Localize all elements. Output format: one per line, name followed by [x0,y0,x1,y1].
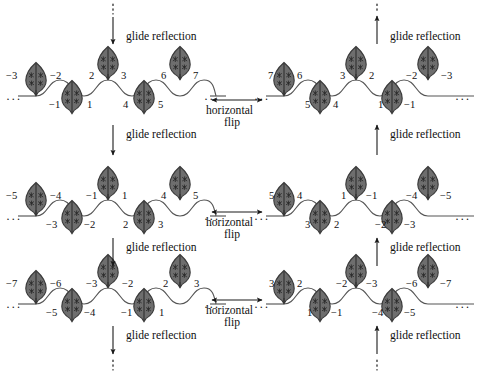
motif-label: −1 [86,190,97,201]
motif-label: −2 [122,278,133,289]
motif-label: −7 [6,278,17,289]
leaf-motif [62,81,82,114]
motif-label: −2 [406,70,417,81]
motif-label: −3 [6,70,17,81]
motif-label: −5 [404,307,415,318]
motif-label: 3 [158,219,163,230]
motif-label: −5 [46,307,57,318]
motif-label: −1 [121,307,132,318]
motif-label: −4 [50,190,61,201]
motif-label: −5 [440,190,451,201]
motif-label: 6 [161,70,166,81]
motif-label: −6 [406,278,417,289]
ellipsis-trail: ··· [204,212,220,227]
leaf-motif [134,201,154,234]
ellipsis-lead: ··· [254,300,270,315]
motif-label: −4 [372,307,383,318]
motif-label: −3 [366,278,377,289]
motif-label: −3 [404,219,415,230]
label-flip-row3-line2: flip [224,317,240,329]
motif-label: 7 [268,70,273,81]
motif-label: 3 [121,70,126,81]
motif-label: −3 [46,219,57,230]
motif-label: −6 [50,278,61,289]
label-glide-mid1-left: glide reflection [126,129,197,141]
label-glide-mid1-right: glide reflection [390,129,461,141]
leaf-motif [310,81,330,114]
frieze-pattern-svg [0,0,492,374]
motif-label: 2 [163,278,168,289]
leaf-motif [134,81,154,114]
motif-label: 2 [89,70,94,81]
ellipsis-lead: ··· [6,300,22,315]
label-glide-bottom-right: glide reflection [390,330,461,342]
label-glide-mid2-right: glide reflection [390,242,461,254]
motif-label: 1 [378,99,383,110]
motif-label: −4 [406,190,417,201]
ellipsis-lead: ··· [6,212,22,227]
motif-label: 3 [194,278,199,289]
leaf-motif [310,201,330,234]
motif-label: 3 [269,278,274,289]
figure-canvas: glide reflection glide reflection glide … [0,0,492,374]
motif-label: 7 [193,70,198,81]
motif-label: 1 [159,307,164,318]
motif-label: 1 [341,190,346,201]
ellipsis-lead: ··· [254,92,270,107]
motif-label: 6 [297,70,302,81]
motif-label: −1 [366,190,377,201]
motif-label: 5 [193,190,198,201]
label-flip-row2-line2: flip [224,229,240,241]
leaf-motif [134,289,154,322]
ellipsis-lead: ··· [254,212,270,227]
motif-label: 4 [161,190,166,201]
leaf-motif [62,201,82,234]
motif-label: −2 [84,219,95,230]
motif-label: 1 [307,307,312,318]
label-glide-bottom-left: glide reflection [126,330,197,342]
motif-label: 2 [123,219,128,230]
motif-label: −1 [49,99,60,110]
motif-label: −2 [336,278,347,289]
motif-label: −1 [404,99,415,110]
motif-label: 1 [122,190,127,201]
motif-label: 1 [87,99,92,110]
motif-label: 5 [305,99,310,110]
motif-label: −2 [375,219,386,230]
ellipsis-trail: ··· [455,300,471,315]
label-glide-top-right: glide reflection [390,31,461,43]
motif-label: 4 [297,190,302,201]
motif-label: 5 [269,190,274,201]
leaf-motif [62,289,82,322]
motif-label: 4 [333,99,338,110]
label-flip-row1-line2: flip [224,117,240,129]
motif-label: −1 [331,307,342,318]
motif-label: 3 [305,219,310,230]
motif-label: 2 [334,219,339,230]
motif-label: −5 [6,190,17,201]
motif-label: 4 [123,99,128,110]
motif-label: −7 [440,278,451,289]
ellipsis-trail: ··· [204,92,220,107]
ellipsis-trail: ··· [455,92,471,107]
ellipsis-lead: ··· [6,92,22,107]
ellipsis-trail: ··· [455,212,471,227]
motif-label: −3 [441,70,452,81]
motif-label: 2 [369,70,374,81]
motif-label: −2 [50,70,61,81]
leaf-motif [310,289,330,322]
motif-label: 3 [340,70,345,81]
leaf-motif [382,81,402,114]
leaf-motif [382,289,402,322]
label-glide-mid2-left: glide reflection [126,242,197,254]
motif-label: 5 [158,99,163,110]
motif-label: 2 [297,278,302,289]
label-glide-top-left: glide reflection [126,31,197,43]
motif-label: −4 [84,307,95,318]
ellipsis-trail: ··· [204,300,220,315]
motif-label: −3 [86,278,97,289]
